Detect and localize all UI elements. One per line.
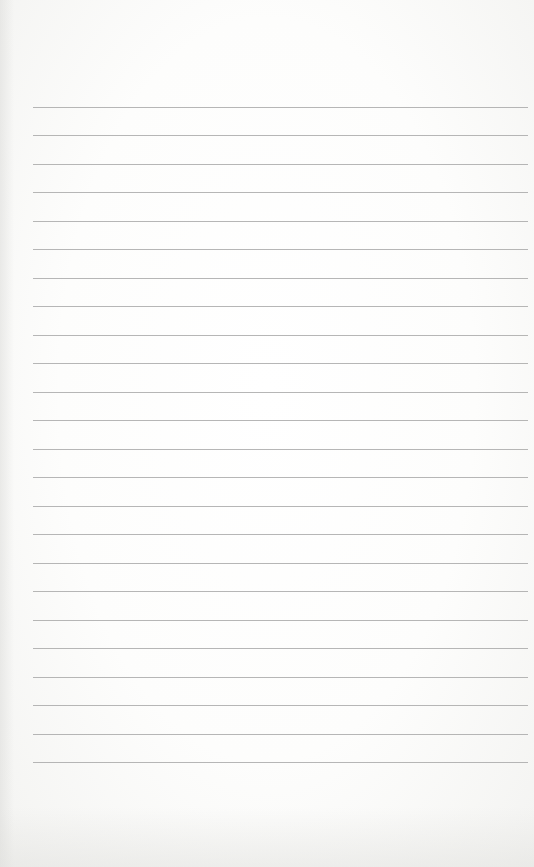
ruled-line <box>33 335 528 336</box>
ruled-line <box>33 477 528 478</box>
ruled-line <box>33 392 528 393</box>
ruled-line <box>33 534 528 535</box>
ruled-line <box>33 306 528 307</box>
ruled-line <box>33 705 528 706</box>
ruled-line <box>33 648 528 649</box>
ruled-line <box>33 506 528 507</box>
ruled-line <box>33 221 528 222</box>
ruled-lines <box>0 0 534 867</box>
ruled-line <box>33 107 528 108</box>
ruled-line <box>33 563 528 564</box>
ruled-line <box>33 164 528 165</box>
ruled-line <box>33 363 528 364</box>
ruled-line <box>33 762 528 763</box>
ruled-line <box>33 420 528 421</box>
ruled-line <box>33 449 528 450</box>
lined-paper-page <box>0 0 534 867</box>
ruled-line <box>33 249 528 250</box>
ruled-line <box>33 620 528 621</box>
ruled-line <box>33 734 528 735</box>
ruled-line <box>33 278 528 279</box>
ruled-line <box>33 677 528 678</box>
ruled-line <box>33 192 528 193</box>
ruled-line <box>33 591 528 592</box>
ruled-line <box>33 135 528 136</box>
